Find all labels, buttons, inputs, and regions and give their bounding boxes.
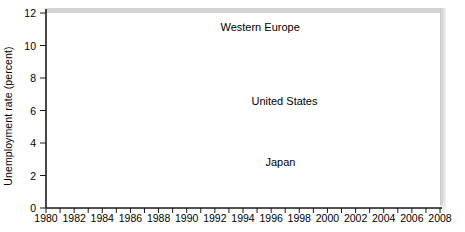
plot-area — [46, 13, 440, 208]
series-label-japan: Japan — [266, 156, 296, 168]
plot-background — [46, 13, 440, 208]
unemployment-rate-line-chart: Unemployment rate (percent) 024681012 19… — [0, 0, 465, 232]
x-tick-label: 2008 — [423, 212, 457, 224]
series-label-western-europe: Western Europe — [220, 21, 299, 33]
series-label-united-states: United States — [251, 95, 317, 107]
y-tick-label: 12 — [14, 7, 36, 19]
y-tick-label: 6 — [14, 105, 36, 117]
y-tick-label: 8 — [14, 72, 36, 84]
y-tick-label: 4 — [14, 137, 36, 149]
right-shade-band — [440, 8, 446, 208]
y-tick-label: 10 — [14, 40, 36, 52]
y-tick-label: 2 — [14, 170, 36, 182]
